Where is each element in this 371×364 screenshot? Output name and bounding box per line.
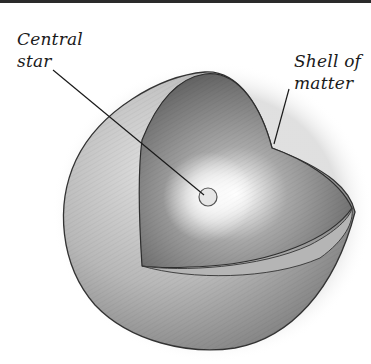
central-star-label: Central star [17,28,83,72]
shell-label-line1: Shell of [294,50,361,72]
central-star-label-line1: Central [17,28,83,50]
shell-label: Shell of matter [294,50,361,94]
central-star-label-line2: star [17,50,83,72]
central-star [199,188,217,206]
shell-label-line2: matter [294,72,361,94]
